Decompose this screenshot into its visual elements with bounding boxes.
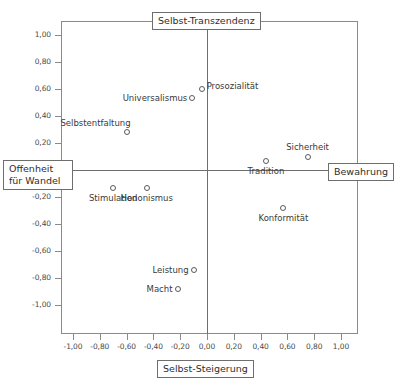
y-axis-tick-label: -0,20 xyxy=(3,192,51,201)
plot-frame xyxy=(61,21,358,334)
data-point-label: Konformität xyxy=(258,213,308,223)
y-axis-tick xyxy=(55,251,61,252)
x-axis-tick xyxy=(261,334,262,340)
data-point-label: Universalismus xyxy=(123,93,188,103)
y-axis-tick-label: 0,80 xyxy=(3,57,51,66)
data-point-label: Selbstentfaltung xyxy=(60,118,130,128)
x-axis-tick xyxy=(287,334,288,340)
x-axis-tick xyxy=(180,334,181,340)
data-point xyxy=(175,286,181,292)
axis-label-bottom: Selbst-Steigerung xyxy=(157,360,254,378)
y-axis-tick xyxy=(55,116,61,117)
y-axis-zero-line xyxy=(207,21,208,334)
value-circumplex-scatter-chart: 1,000,800,600,400,20-0,20-0,40-0,60-0,80… xyxy=(0,0,400,385)
data-point-label: Prosozialität xyxy=(207,81,259,91)
y-axis-tick-label: -0,40 xyxy=(3,219,51,228)
x-axis-zero-line xyxy=(61,170,358,171)
axis-label-right: Bewahrung xyxy=(328,163,394,181)
x-axis-tick xyxy=(207,334,208,340)
y-axis-tick xyxy=(55,89,61,90)
data-point-label: Macht xyxy=(147,284,173,294)
y-axis-tick-label: 0,60 xyxy=(3,84,51,93)
y-axis-tick-label: -1,00 xyxy=(3,300,51,309)
y-axis-tick-label: 0,20 xyxy=(3,138,51,147)
data-point-label: Hedonismus xyxy=(120,193,173,203)
y-axis-tick xyxy=(55,305,61,306)
y-axis-tick xyxy=(55,35,61,36)
data-point-label: Tradition xyxy=(248,166,285,176)
y-axis-tick xyxy=(55,224,61,225)
y-axis-tick xyxy=(55,278,61,279)
axis-label-left: Offenheit für Wandel xyxy=(3,160,73,190)
data-point-label: Sicherheit xyxy=(286,142,329,152)
data-point xyxy=(191,267,197,273)
data-point xyxy=(199,86,205,92)
data-point xyxy=(305,154,311,160)
y-axis-tick xyxy=(55,197,61,198)
x-axis-tick xyxy=(341,334,342,340)
axis-label-left-line1: Offenheit xyxy=(9,163,53,174)
x-axis-tick xyxy=(153,334,154,340)
x-axis-tick xyxy=(234,334,235,340)
data-point-label: Leistung xyxy=(152,265,188,275)
y-axis-tick xyxy=(55,143,61,144)
x-axis-tick xyxy=(314,334,315,340)
y-axis-tick-label: 1,00 xyxy=(3,30,51,39)
x-axis-tick xyxy=(100,334,101,340)
y-axis-tick-label: 0,40 xyxy=(3,111,51,120)
x-axis-tick xyxy=(73,334,74,340)
data-point xyxy=(144,185,150,191)
data-point xyxy=(124,129,130,135)
axis-label-top: Selbst-Transzendenz xyxy=(152,12,261,30)
data-point xyxy=(110,185,116,191)
y-axis-tick-label: -0,60 xyxy=(3,246,51,255)
data-point xyxy=(263,158,269,164)
y-axis-tick xyxy=(55,62,61,63)
x-axis-tick-label: 1,00 xyxy=(321,342,361,351)
axis-label-left-line2: für Wandel xyxy=(9,175,60,186)
y-axis-tick-label: -0,80 xyxy=(3,273,51,282)
x-axis-tick xyxy=(127,334,128,340)
